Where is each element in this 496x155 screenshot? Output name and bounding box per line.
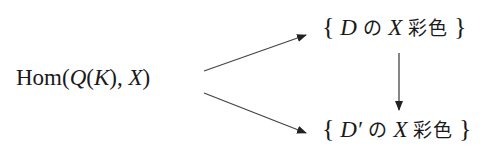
coloring-label: 彩色 <box>408 17 448 39</box>
x-symbol: X <box>388 15 402 40</box>
top-target-node: { D の X 彩色 } <box>322 14 466 40</box>
q-symbol: Q <box>70 65 87 90</box>
arrow-to-bottom <box>204 93 306 133</box>
d-prime-symbol: D′ <box>340 117 362 142</box>
hom-label: Hom <box>16 65 62 90</box>
left-brace: { <box>322 114 334 143</box>
right-brace: } <box>454 12 466 41</box>
left-brace: { <box>322 12 334 41</box>
paren: ), <box>109 65 122 90</box>
bottom-target-node: { D′ の X 彩色 } <box>322 116 471 142</box>
x-symbol: X <box>128 65 142 90</box>
arrow-to-top <box>204 35 306 71</box>
source-node: Hom(Q(K), X) <box>16 66 150 89</box>
paren: ) <box>143 65 151 90</box>
paren: ( <box>86 65 94 90</box>
no-particle: の <box>368 119 388 141</box>
coloring-label: 彩色 <box>413 119 453 141</box>
right-brace: } <box>459 114 471 143</box>
d-symbol: D <box>340 15 357 40</box>
k-symbol: K <box>94 65 109 90</box>
x-symbol: X <box>393 117 407 142</box>
no-particle: の <box>363 17 383 39</box>
paren: ( <box>62 65 70 90</box>
